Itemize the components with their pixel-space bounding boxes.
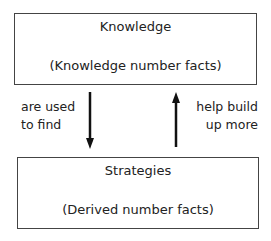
right-label-line1: help build <box>196 98 258 116</box>
up-arrow-icon <box>172 92 180 147</box>
left-label-line1: are used <box>21 98 75 116</box>
left-label-line2: to find <box>21 116 75 134</box>
left-label: are used to find <box>21 98 75 134</box>
down-arrow-icon <box>86 92 94 149</box>
right-label: help build up more <box>196 98 258 134</box>
right-label-line2: up more <box>196 116 258 134</box>
